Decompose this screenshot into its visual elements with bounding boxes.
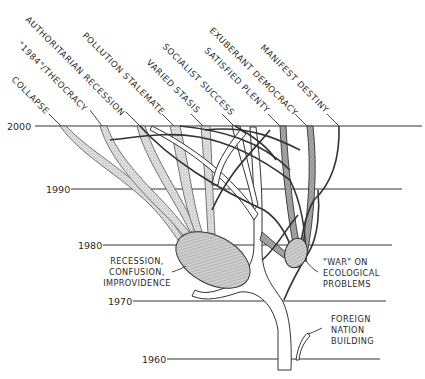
node-war-label: "WAR" ON ECOLOGICAL PROBLEMS [307, 257, 380, 289]
node-foreign-label: FOREIGN NATION BUILDING [308, 314, 374, 346]
outcome-label: COLLAPSE [10, 74, 52, 116]
alternative-futures-diagram: 2000 1990 1980 1970 1960 [0, 0, 425, 379]
leader-line [172, 266, 186, 272]
note-line: PROBLEMS [323, 279, 371, 289]
year-label: 1960 [142, 354, 166, 365]
year-label: 1990 [46, 184, 70, 195]
leader-line [327, 114, 339, 126]
note-line: FOREIGN [331, 314, 371, 324]
year-label: 2000 [7, 121, 31, 132]
node-recession-label: RECESSION, CONFUSION, IMPROVIDENCE [103, 256, 186, 288]
leader-line [191, 114, 203, 126]
note-line: RECESSION, [110, 256, 164, 266]
year-1970: 1970 [108, 296, 386, 307]
year-1960: 1960 [142, 354, 380, 365]
note-line: "WAR" ON [323, 257, 368, 267]
outcome-labels: COLLAPSE "1984"/THEOCRACY AUTHORITARIAN … [10, 14, 339, 126]
leader-line [162, 114, 174, 126]
leader-line [49, 114, 61, 126]
leader-line [308, 328, 322, 334]
note-line: NATION [331, 325, 364, 335]
branch-foreign [296, 333, 310, 360]
note-line: BUILDING [331, 336, 374, 346]
note-line: IMPROVIDENCE [103, 278, 171, 288]
leader-line [90, 110, 102, 126]
leader-line [268, 114, 280, 126]
leader-line [126, 112, 140, 126]
year-label: 1970 [108, 296, 132, 307]
note-line: CONFUSION, [109, 267, 165, 277]
leader-line [295, 114, 307, 126]
note-line: ECOLOGICAL [323, 268, 380, 278]
leader-line [307, 262, 318, 272]
year-label: 1980 [78, 240, 102, 251]
